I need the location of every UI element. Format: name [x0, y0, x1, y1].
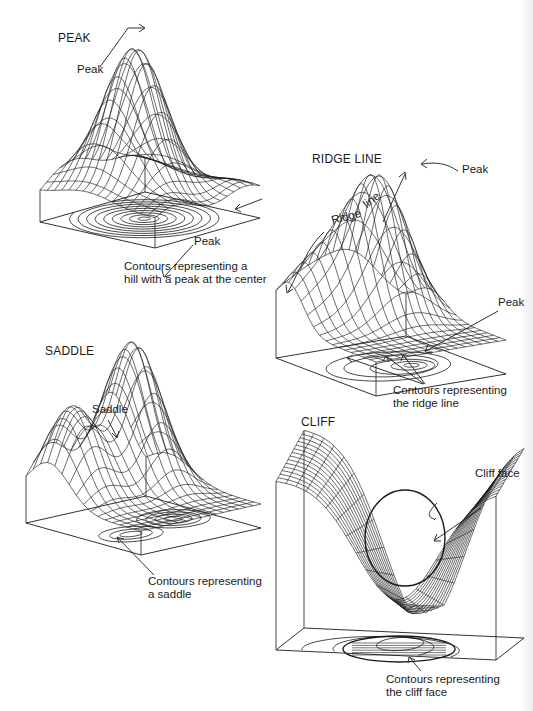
- cliff-face-arrow: [429, 503, 437, 520]
- label-ridge-peak: Peak: [462, 163, 488, 176]
- caption-ridge: Contours representing the ridge line: [393, 384, 507, 409]
- saddle-surface-wireframe: [26, 342, 261, 555]
- panel-title-cliff: CLIFF: [301, 415, 335, 429]
- panel-title-peak: PEAK: [58, 31, 91, 45]
- caption-peak: Contours representing a hill with a peak…: [124, 260, 267, 285]
- caption-line: the cliff face: [386, 686, 500, 699]
- ridge-surface-wireframe: [276, 174, 506, 396]
- cliff-contour-arrow: [410, 658, 421, 671]
- panel-title-ridge-line: RIDGE LINE: [312, 152, 382, 166]
- caption-line: a saddle: [148, 588, 262, 601]
- ridge-peak-arrow: [422, 163, 458, 171]
- peak-surface-wireframe: [40, 49, 260, 248]
- caption-line: Contours representing: [393, 384, 507, 397]
- label-cliff-face: Cliff face: [475, 467, 520, 480]
- caption-line: the ridge line: [393, 397, 507, 410]
- saddle-contour-arrow: [118, 538, 154, 575]
- cliff-surface-wireframe: [276, 431, 524, 663]
- caption-line: Contours representing: [386, 673, 500, 686]
- label-saddle: Saddle: [92, 403, 128, 416]
- label-contour-peak: Peak: [194, 235, 220, 248]
- panel-title-saddle: SADDLE: [45, 344, 94, 358]
- saddle-arrow: [108, 420, 117, 437]
- label-surface-peak: Peak: [77, 63, 103, 76]
- label-ridge-contour-peak: Peak: [498, 296, 524, 309]
- caption-saddle: Contours representing a saddle: [148, 575, 262, 600]
- peak-leader-arrow: [100, 28, 144, 67]
- caption-cliff: Contours representing the cliff face: [386, 673, 500, 698]
- caption-line: Contours representing: [148, 575, 262, 588]
- ridge-contour-arrow-2: [387, 357, 424, 384]
- ridge-contour-peak-arrow: [426, 311, 498, 351]
- caption-line: hill with a peak at the center: [124, 273, 267, 286]
- caption-line: Contours representing a: [124, 260, 267, 273]
